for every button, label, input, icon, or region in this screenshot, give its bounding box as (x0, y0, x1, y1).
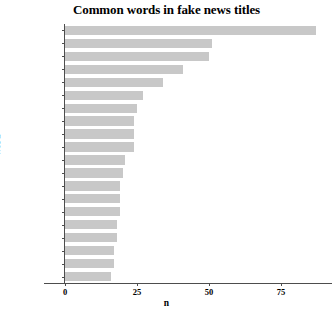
x-axis-title: n (0, 298, 333, 308)
bar-vaccine (65, 78, 163, 87)
bar-death (65, 142, 134, 151)
y-tick-mark (62, 277, 65, 278)
x-tick-mark (137, 283, 138, 286)
bar-row (65, 24, 316, 37)
bar-test (65, 246, 114, 255)
y-tick-mark (62, 43, 65, 44)
x-tick-label-75: 75 (277, 287, 286, 297)
y-axis-title: word (0, 134, 2, 155)
bar-china (65, 26, 316, 35)
x-tick-mark (281, 283, 282, 286)
bar-row (65, 128, 134, 141)
bar-flu (65, 272, 111, 281)
bar-update (65, 181, 120, 190)
bar-row (65, 50, 209, 63)
bar-row (65, 115, 134, 128)
bar-cure (65, 233, 117, 242)
y-tick-mark (62, 147, 65, 148)
y-tick-mark (62, 238, 65, 239)
bar-row (65, 257, 114, 270)
y-tick-mark (62, 173, 65, 174)
bar-row (65, 231, 117, 244)
y-tick-mark (62, 30, 65, 31)
x-tick-label-0: 0 (63, 287, 67, 297)
x-axis-line (44, 283, 332, 284)
bar-row (65, 218, 117, 231)
bar-infected (65, 207, 120, 216)
y-tick-mark (62, 186, 65, 187)
chart-title: Common words in fake news titles (0, 2, 333, 18)
y-tick-mark (62, 225, 65, 226)
bar-sars (65, 194, 120, 203)
bar-due (65, 259, 114, 268)
y-tick-mark (62, 69, 65, 70)
y-tick-mark (62, 264, 65, 265)
bar-row (65, 192, 120, 205)
y-tick-mark (62, 199, 65, 200)
bar-row (65, 179, 120, 192)
y-tick-mark (62, 212, 65, 213)
y-tick-mark (62, 160, 65, 161)
bar-patients (65, 116, 134, 125)
bar-people (65, 104, 137, 113)
bar-row (65, 166, 123, 179)
y-tick-mark (62, 121, 65, 122)
bar-chinese (65, 65, 183, 74)
x-tick-label-50: 50 (205, 287, 214, 297)
bar-beer (65, 91, 143, 100)
y-tick-mark (62, 134, 65, 135)
y-tick-mark (62, 251, 65, 252)
bar-world (65, 155, 125, 164)
x-tick-label-25: 25 (133, 287, 142, 297)
bar-row (65, 205, 120, 218)
y-tick-mark (62, 56, 65, 57)
bar-row (65, 154, 125, 167)
bar-outbreak (65, 39, 212, 48)
bar-row (65, 37, 212, 50)
bar-health (65, 129, 134, 138)
bar-wuhan (65, 52, 209, 61)
x-tick-mark (65, 283, 66, 286)
y-tick-mark (62, 108, 65, 109)
x-tick-mark (209, 283, 210, 286)
bar-row (65, 270, 111, 283)
bar-row (65, 102, 137, 115)
y-tick-mark (62, 95, 65, 96)
bar-news (65, 220, 117, 229)
bar-spread (65, 168, 123, 177)
bar-row (65, 89, 143, 102)
y-tick-mark (62, 82, 65, 83)
bar-row (65, 141, 134, 154)
chart-figure: Common words in fake news titles word n … (0, 0, 333, 312)
bar-row (65, 244, 114, 257)
bar-row (65, 76, 163, 89)
bar-row (65, 63, 183, 76)
